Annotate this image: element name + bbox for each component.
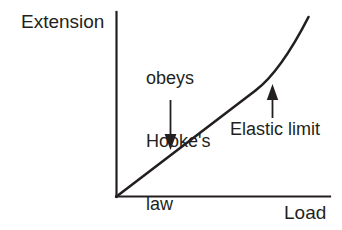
elastic-limit-arrow (267, 84, 278, 118)
hookes-law-annotation: obeys Hooke's law (146, 26, 210, 230)
hookes-law-line-2: Hooke's (146, 131, 210, 152)
hookes-law-line-3: law (146, 194, 210, 215)
hookes-law-line-1: obeys (146, 68, 210, 89)
elastic-limit-annotation-label: Elastic limit (230, 120, 320, 138)
load-extension-figure: Extension Load obeys Hooke's law Elastic… (0, 0, 342, 230)
x-axis-label: Load (284, 203, 326, 222)
y-axis-label: Extension (21, 12, 104, 31)
